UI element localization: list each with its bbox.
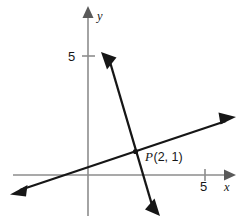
shallow-line-left-arrow-icon xyxy=(10,185,28,197)
steep-line-top-arrow-icon xyxy=(101,52,117,70)
steep-line-bottom-arrow-icon xyxy=(145,199,160,217)
steep-descending-line xyxy=(110,62,152,205)
point-p-coords-label: (2, 1) xyxy=(154,150,183,164)
intersection-point-marker xyxy=(133,149,138,154)
x-axis-label: x xyxy=(223,180,230,194)
y-axis-label: y xyxy=(95,9,103,23)
y-axis-arrow-icon xyxy=(83,6,94,18)
shallow-ascending-line xyxy=(20,121,226,190)
point-p-name-label: P xyxy=(144,149,153,164)
graph-canvas: y x 5 5 P (2, 1) xyxy=(0,0,242,224)
x-axis-arrow-icon xyxy=(224,170,236,181)
x-tick-label-5: 5 xyxy=(200,179,207,194)
coordinate-plane-figure: y x 5 5 P (2, 1) xyxy=(0,0,242,224)
shallow-line-right-arrow-icon xyxy=(219,113,237,125)
y-tick-label-5: 5 xyxy=(68,49,75,64)
